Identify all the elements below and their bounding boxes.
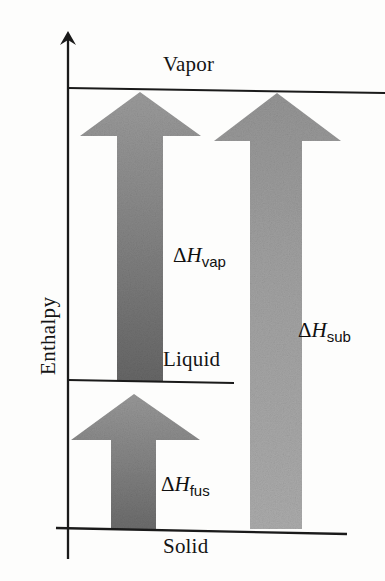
delta-symbol-vap: Δ bbox=[173, 243, 187, 267]
fusion-arrow bbox=[71, 394, 200, 529]
subscript-sub: sub bbox=[327, 328, 351, 345]
subscript-vap: vap bbox=[202, 253, 226, 270]
phase-label-solid: Solid bbox=[163, 534, 208, 559]
h-symbol-fus: H bbox=[175, 472, 190, 496]
liquid-level-line bbox=[68, 380, 234, 383]
y-axis-label: Enthalpy bbox=[36, 297, 61, 375]
vaporization-arrow bbox=[80, 92, 201, 381]
phase-label-liquid: Liquid bbox=[163, 347, 220, 372]
enthalpy-label-sublimation: ΔHsub bbox=[298, 318, 351, 345]
delta-symbol-sub: Δ bbox=[298, 318, 312, 342]
subscript-fus: fus bbox=[190, 482, 210, 499]
vapor-level-line bbox=[68, 88, 385, 93]
delta-symbol-fus: Δ bbox=[161, 472, 175, 496]
h-symbol-sub: H bbox=[312, 318, 327, 342]
phase-label-vapor: Vapor bbox=[163, 52, 214, 77]
enthalpy-label-vaporization: ΔHvap bbox=[173, 243, 226, 270]
enthalpy-label-fusion: ΔHfus bbox=[161, 472, 210, 499]
enthalpy-phase-diagram: Vapor Liquid Solid Enthalpy ΔHvap ΔHsub … bbox=[0, 0, 385, 581]
sublimation-arrow bbox=[214, 93, 341, 529]
h-symbol-vap: H bbox=[187, 243, 202, 267]
